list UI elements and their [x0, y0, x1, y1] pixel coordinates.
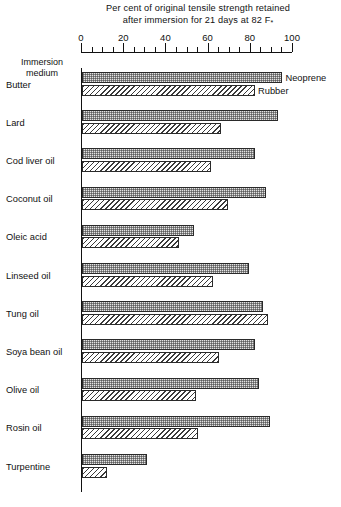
x-axis-minor-tick-5 [92, 47, 93, 52]
x-axis-minor-tick-25 [134, 47, 135, 52]
x-axis-tick-label-80: 80 [245, 32, 256, 43]
chart-row: Lard [0, 110, 341, 134]
category-label-coconut-oil: Coconut oil [6, 194, 78, 204]
x-axis-minor-tick-65 [218, 47, 219, 52]
bar-rubber-butter [82, 85, 255, 96]
x-axis-minor-tick-15 [113, 47, 114, 52]
x-axis-line [81, 52, 292, 53]
chart-row: Coconut oil [0, 187, 341, 211]
category-label-soya-bean-oil: Soya bean oil [6, 347, 78, 357]
bar-neoprene-olive-oil [82, 378, 259, 389]
x-axis-major-tick-80 [250, 43, 251, 52]
x-axis: 020406080100 [0, 32, 341, 58]
x-axis-tick-label-20: 20 [118, 32, 129, 43]
bar-rubber-cod-liver-oil [82, 161, 211, 172]
chart-row: Linseed oil [0, 263, 341, 287]
category-label-lard: Lard [6, 118, 78, 128]
x-axis-major-tick-20 [123, 43, 124, 52]
chart-row: Turpentine [0, 454, 341, 478]
bar-neoprene-oleic-acid [82, 225, 194, 236]
legend-label-rubber: Rubber [257, 86, 290, 96]
bar-neoprene-soya-bean-oil [82, 339, 255, 350]
x-axis-major-tick-60 [208, 43, 209, 52]
chart-title-line-2: after immersion for 21 days at 82 F* [62, 14, 334, 29]
x-axis-minor-tick-50 [187, 47, 188, 52]
bar-neoprene-tung-oil [82, 301, 263, 312]
bar-rubber-tung-oil [82, 314, 268, 325]
chart-row: Tung oil [0, 301, 341, 325]
x-axis-tick-label-0: 0 [78, 32, 83, 43]
bar-neoprene-cod-liver-oil [82, 148, 255, 159]
bar-neoprene-lard [82, 110, 278, 121]
category-label-linseed-oil: Linseed oil [6, 271, 78, 281]
chart-title-line-1: Per cent of original tensile strength re… [62, 2, 334, 14]
x-axis-major-tick-0 [81, 43, 82, 52]
chart-title-line-2-text: after immersion for 21 days at 82 F [123, 15, 271, 25]
bar-rubber-coconut-oil [82, 199, 228, 210]
x-axis-minor-tick-70 [229, 47, 230, 52]
y-axis-caption-line-1: Immersion [6, 57, 78, 68]
x-axis-tick-label-60: 60 [202, 32, 213, 43]
category-label-butter: Butter [6, 80, 78, 90]
x-axis-major-tick-40 [165, 43, 166, 52]
x-axis-minor-tick-75 [239, 47, 240, 52]
bar-rubber-olive-oil [82, 390, 196, 401]
legend-label-neoprene: Neoprene [284, 73, 327, 83]
category-label-rosin-oil: Rosin oil [6, 423, 78, 433]
chart-row: ButterNeopreneRubber [0, 72, 341, 96]
category-label-olive-oil: Olive oil [6, 385, 78, 395]
x-axis-minor-tick-55 [197, 47, 198, 52]
bar-rubber-soya-bean-oil [82, 352, 219, 363]
bar-chart: Per cent of original tensile strength re… [0, 0, 341, 507]
x-axis-tick-label-40: 40 [160, 32, 171, 43]
x-axis-minor-tick-85 [260, 47, 261, 52]
x-axis-minor-tick-30 [144, 47, 145, 52]
bar-rubber-oleic-acid [82, 237, 179, 248]
bar-rubber-turpentine [82, 467, 107, 478]
chart-row: Olive oil [0, 378, 341, 402]
chart-row: Rosin oil [0, 416, 341, 440]
chart-title-footnote-marker: * [270, 19, 273, 26]
x-axis-tick-label-100: 100 [284, 32, 300, 43]
bar-neoprene-coconut-oil [82, 187, 266, 198]
x-axis-major-tick-100 [292, 43, 293, 52]
bar-rubber-lard [82, 123, 221, 134]
x-axis-minor-tick-45 [176, 47, 177, 52]
bar-neoprene-butter [82, 72, 282, 83]
x-axis-minor-tick-95 [281, 47, 282, 52]
category-label-turpentine: Turpentine [6, 462, 78, 472]
x-axis-minor-tick-35 [155, 47, 156, 52]
bar-rubber-rosin-oil [82, 428, 198, 439]
x-axis-minor-tick-90 [271, 47, 272, 52]
chart-title: Per cent of original tensile strength re… [62, 2, 334, 29]
bar-neoprene-turpentine [82, 454, 147, 465]
x-axis-minor-tick-10 [102, 47, 103, 52]
bar-neoprene-linseed-oil [82, 263, 249, 274]
category-label-tung-oil: Tung oil [6, 309, 78, 319]
category-label-oleic-acid: Oleic acid [6, 232, 78, 242]
chart-row: Cod liver oil [0, 148, 341, 172]
category-label-cod-liver-oil: Cod liver oil [6, 156, 78, 166]
chart-row: Oleic acid [0, 225, 341, 249]
bar-rubber-linseed-oil [82, 276, 213, 287]
chart-row: Soya bean oil [0, 339, 341, 363]
bar-neoprene-rosin-oil [82, 416, 270, 427]
plot-area: ButterNeopreneRubberLardCod liver oilCoc… [0, 68, 341, 498]
